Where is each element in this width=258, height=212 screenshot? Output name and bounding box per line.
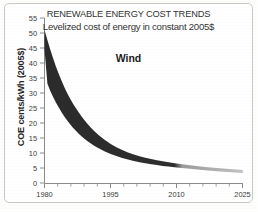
x-tick-label: 1995: [96, 190, 126, 199]
x-tick-label: 1980: [30, 190, 60, 199]
y-tick-label: 55: [23, 14, 37, 23]
series-label-wind: Wind: [0, 52, 257, 64]
y-tick-label: 20: [23, 119, 37, 128]
chart-figure: RENEWABLE ENERGY COST TRENDS Levelized c…: [0, 0, 257, 212]
y-tick-label: 15: [23, 134, 37, 143]
y-tick-label: 0: [23, 179, 37, 188]
y-tick-label: 35: [23, 74, 37, 83]
chart-subtitle: Levelized cost of energy in constant 200…: [0, 21, 257, 32]
y-tick-label: 10: [23, 149, 37, 158]
x-tick-label: 2025: [228, 190, 258, 199]
y-tick-label: 25: [23, 104, 37, 113]
y-tick-label: 40: [23, 59, 37, 68]
y-tick-label: 5: [23, 164, 37, 173]
x-tick-label: 2010: [162, 190, 192, 199]
y-tick-label: 45: [23, 44, 37, 53]
y-tick-label: 50: [23, 29, 37, 38]
y-tick-label: 30: [23, 89, 37, 98]
y-axis-ticks: [40, 18, 45, 183]
chart-title: RENEWABLE ENERGY COST TRENDS: [0, 9, 257, 19]
x-axis-major-ticks: [45, 184, 243, 189]
